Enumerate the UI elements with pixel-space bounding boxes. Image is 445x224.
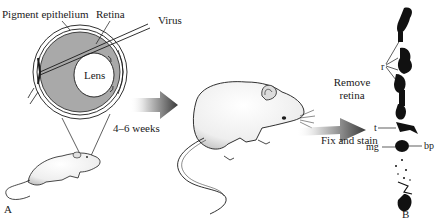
cell-label-bp: bp <box>424 140 434 152</box>
figure-canvas: Pigment epithelium Retina Virus Lens 4–6… <box>0 0 445 224</box>
label-remove-retina-line2: retina <box>322 89 382 101</box>
cell-label-r: r <box>381 61 384 73</box>
stained-retinal-cells <box>394 8 418 212</box>
label-retina: Retina <box>96 8 125 20</box>
label-virus: Virus <box>158 14 182 26</box>
cell-label-t: t <box>374 122 377 134</box>
panel-label-b: B <box>402 208 409 220</box>
label-incubation-time: 4–6 weeks <box>113 122 160 134</box>
cell-label-mg: mg <box>366 141 379 153</box>
panel-label-a: A <box>4 203 12 215</box>
label-remove-retina-line1: Remove <box>322 76 382 88</box>
mouse-adult-illustration <box>178 82 315 214</box>
eye-diagram <box>28 21 150 158</box>
figure-artwork <box>0 0 445 224</box>
label-lens: Lens <box>84 69 105 81</box>
mouse-pup-illustration <box>6 152 100 200</box>
arrow-1-icon <box>130 91 178 119</box>
label-pigment-epithelium: Pigment epithelium <box>2 8 88 20</box>
